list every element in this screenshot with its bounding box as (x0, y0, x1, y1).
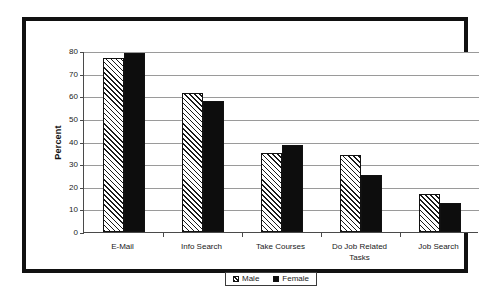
legend-label-female: Female (282, 275, 309, 283)
y-axis-tick-label: 60 (69, 93, 78, 101)
legend-swatch-female-icon (273, 276, 279, 282)
y-axis-tick (80, 233, 84, 234)
y-axis-tick-label: 0 (74, 229, 78, 237)
bar-female (203, 101, 224, 232)
x-axis-category-label: Job Search (391, 241, 487, 252)
x-axis-tick (163, 233, 164, 237)
plot-area: 01020304050607080 (83, 52, 478, 233)
legend-label-male: Male (242, 275, 259, 283)
x-axis-tick (242, 233, 243, 237)
bar-group (242, 51, 321, 232)
y-axis-tick-label: 20 (69, 184, 78, 192)
y-axis-tick-label: 30 (69, 161, 78, 169)
bar-group (400, 51, 479, 232)
bar-female (124, 53, 145, 232)
y-axis-tick-label: 10 (69, 206, 78, 214)
y-axis-tick-label: 80 (69, 48, 78, 56)
bar-male (261, 153, 282, 232)
legend-entry-female: Female (273, 275, 309, 283)
x-axis-tick (400, 233, 401, 237)
bar-group (84, 51, 163, 232)
bar-group (321, 51, 400, 232)
bar-male (182, 93, 203, 232)
bar-male (340, 155, 361, 232)
y-axis-tick-label: 40 (69, 139, 78, 147)
chart-outer-frame: Percent 01020304050607080 E-MailInfo Sea… (22, 17, 468, 273)
legend-swatch-male-icon (233, 276, 239, 282)
chart-legend: Male Female (225, 272, 317, 286)
x-axis-category-line: Tasks (312, 252, 408, 263)
y-axis-tick-label: 50 (69, 116, 78, 124)
x-axis-tick (321, 233, 322, 237)
bar-female (440, 203, 461, 232)
bar-group (163, 51, 242, 232)
x-axis-category-line: Job Search (391, 241, 487, 252)
bar-male (419, 194, 440, 232)
y-axis-tick-label: 70 (69, 71, 78, 79)
legend-entry-male: Male (233, 275, 259, 283)
bar-female (282, 145, 303, 232)
chart-figure: Percent 01020304050607080 E-MailInfo Sea… (0, 0, 494, 293)
y-axis-label: Percent (52, 52, 64, 233)
bar-male (103, 58, 124, 232)
bar-female (361, 175, 382, 232)
